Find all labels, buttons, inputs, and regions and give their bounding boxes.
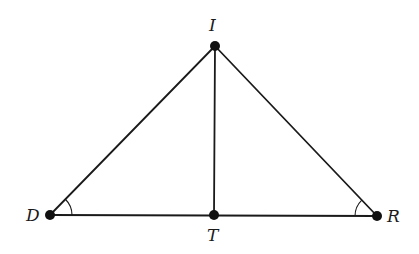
label-R: R	[387, 208, 400, 225]
segments	[50, 46, 377, 216]
point-I	[210, 41, 220, 51]
segment-IT	[214, 46, 215, 215]
label-D: D	[26, 207, 40, 224]
point-D	[45, 210, 55, 220]
segment-DI	[50, 46, 215, 215]
segment-IR	[215, 46, 377, 216]
label-T: T	[207, 227, 218, 244]
point-R	[372, 211, 382, 221]
angle-mark-R	[355, 200, 362, 216]
label-I: I	[209, 17, 216, 34]
angle-mark-D	[65, 199, 72, 215]
triangle-diagram	[0, 0, 419, 254]
point-T	[209, 210, 219, 220]
